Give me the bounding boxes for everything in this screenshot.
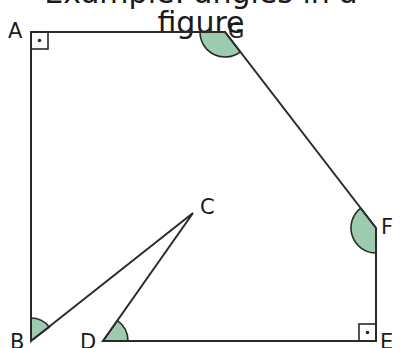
right-angle-marker-e: [359, 324, 376, 341]
vertex-label-e: E: [380, 330, 393, 348]
vertex-label-f: F: [381, 215, 393, 239]
vertex-label-c: C: [200, 195, 215, 219]
angle-arc-f: [351, 208, 376, 253]
vertex-label-d: D: [80, 330, 96, 348]
geometry-figure: Example: angles in a figure A G F E D C …: [0, 0, 402, 348]
figure-svg: A G F E D C B: [0, 0, 402, 348]
polygon-outline: [31, 32, 376, 341]
vertex-label-g: G: [228, 19, 244, 43]
vertex-label-a: A: [8, 19, 23, 43]
vertex-label-b: B: [10, 330, 24, 348]
right-angle-marker-a: [31, 32, 48, 49]
